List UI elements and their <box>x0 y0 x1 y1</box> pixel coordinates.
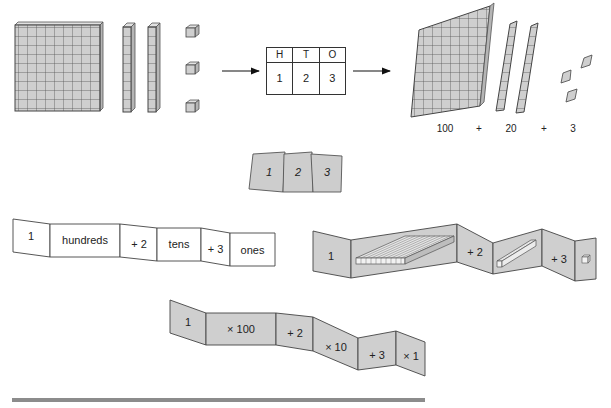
table-cell-ones: 3 <box>320 63 345 94</box>
multiplier-strip-label: × 1 <box>398 350 424 362</box>
multiplier-strip-label: + 3 <box>360 349 394 361</box>
multiplier-strip-label: + 2 <box>278 327 312 339</box>
sum-plus: + <box>537 123 551 134</box>
picture-strip-label: + 2 <box>460 246 490 258</box>
picture-strip-label: + 3 <box>544 253 574 265</box>
ten-rod-skewed <box>516 23 538 113</box>
multiplier-strip-label: × 100 <box>208 323 274 335</box>
word-strip-label: + 3 <box>202 243 229 255</box>
digit-card-label: 2 <box>286 166 310 178</box>
sum-term-tens: 20 <box>500 123 522 134</box>
multiplier-strip-label: 1 <box>175 316 201 328</box>
sum-term-hundreds: 100 <box>432 123 458 134</box>
digit-card-label: 3 <box>315 166 339 178</box>
word-strip-label: 1 <box>18 230 44 242</box>
table-header-hundreds: H <box>267 48 293 62</box>
table-header-ones: O <box>320 48 345 62</box>
table-header-tens: T <box>293 48 319 62</box>
ten-rod-block <box>148 23 160 112</box>
word-strip-label: tens <box>159 238 199 250</box>
place-value-table: H T O 1 2 3 <box>266 47 346 95</box>
ten-rod-skewed <box>496 21 517 111</box>
word-strip-label: ones <box>232 244 273 256</box>
multiplier-strip-label: × 10 <box>316 341 356 353</box>
word-strip-label: hundreds <box>52 234 118 246</box>
sum-term-ones: 3 <box>566 123 580 134</box>
hundred-flat-block <box>15 22 103 111</box>
picture-strip-label: 1 <box>318 250 344 262</box>
unit-cube <box>186 62 199 74</box>
table-cell-hundreds: 1 <box>267 63 293 94</box>
unit-cube <box>186 100 199 112</box>
divider-rule <box>12 398 425 402</box>
unit-cube <box>186 25 199 37</box>
ten-rod-block <box>123 23 135 112</box>
word-strip-label: + 2 <box>122 238 156 250</box>
table-cell-tens: 2 <box>293 63 319 94</box>
sum-plus: + <box>472 123 486 134</box>
digit-card-label: 1 <box>257 166 281 178</box>
unit-cube-icon <box>582 255 590 263</box>
unit-cube-skewed <box>561 55 592 102</box>
hundred-flat-skewed <box>411 3 494 117</box>
